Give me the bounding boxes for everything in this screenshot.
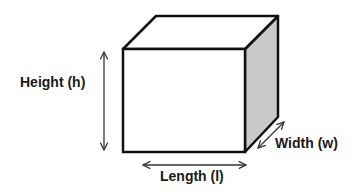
- height-label: Height (h): [20, 74, 85, 90]
- prism-diagram: Height (h) Length (l) Width (w): [0, 0, 355, 192]
- front-face: [123, 49, 245, 152]
- width-label: Width (w): [275, 135, 338, 151]
- length-label: Length (l): [160, 168, 224, 184]
